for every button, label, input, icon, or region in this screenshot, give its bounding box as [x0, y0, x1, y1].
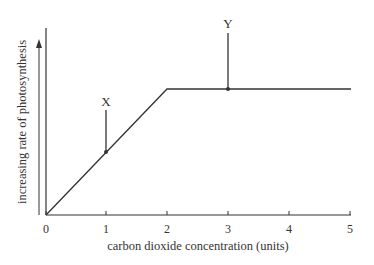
photosynthesis-chart: 0 1 2 3 4 5 carbon dioxide concentration…: [0, 0, 374, 265]
y-axis-title: increasing rate of photosynthesis: [15, 40, 29, 204]
x-tick-label-3: 3: [225, 222, 231, 236]
marker-x-label: X: [101, 94, 111, 109]
marker-y-dot: [226, 87, 230, 91]
arrow-up-icon: [36, 39, 42, 48]
x-tick-label-5: 5: [347, 222, 353, 236]
data-line: [46, 89, 351, 215]
x-tick-label-0: 0: [43, 222, 49, 236]
x-axis-title: carbon dioxide concentration (units): [107, 239, 289, 253]
x-tick-label-1: 1: [103, 222, 109, 236]
marker-x-dot: [104, 150, 108, 154]
x-tick-label-2: 2: [164, 222, 170, 236]
x-tick-label-4: 4: [286, 222, 292, 236]
marker-y-label: Y: [223, 16, 233, 31]
